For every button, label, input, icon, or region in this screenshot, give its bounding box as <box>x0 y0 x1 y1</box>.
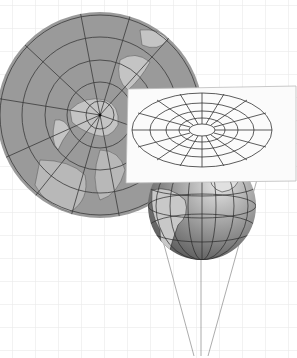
projection-plane <box>126 86 296 183</box>
north-pole-point <box>99 114 102 117</box>
diagram-canvas <box>0 0 297 358</box>
projection-diagram <box>0 0 297 358</box>
